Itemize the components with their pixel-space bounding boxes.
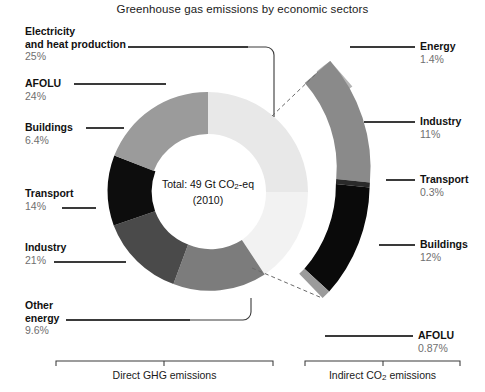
label-other-energy-name: Other bbox=[25, 299, 59, 312]
label-other-energy[interactable]: Other energy 9.6% bbox=[25, 299, 59, 337]
label-r-energy[interactable]: Energy 1.4% bbox=[420, 40, 456, 65]
label-industry-pct: 21% bbox=[25, 254, 66, 267]
bracket-direct-ghg bbox=[56, 361, 273, 366]
label-r-industry-name: Industry bbox=[420, 115, 461, 128]
label-r-buildings[interactable]: Buildings 12% bbox=[420, 238, 468, 263]
label-r-afolu-pct: 0.87% bbox=[418, 342, 454, 355]
label-other-energy-name2: energy bbox=[25, 312, 59, 325]
caption-indirect-co2: Indirect CO2 emissions bbox=[305, 369, 460, 382]
total-suffix: -eq bbox=[239, 178, 254, 190]
donut-center-line2: (2010) bbox=[133, 194, 283, 208]
label-transport-pct: 14% bbox=[25, 200, 73, 213]
label-r-afolu[interactable]: AFOLU 0.87% bbox=[418, 329, 454, 354]
label-industry[interactable]: Industry 21% bbox=[25, 241, 66, 266]
label-afolu-pct: 24% bbox=[25, 90, 61, 103]
slice-afolu[interactable] bbox=[114, 92, 208, 171]
donut-center-total: Total: 49 Gt CO2-eq (2010) bbox=[133, 178, 283, 207]
chart-canvas: Greenhouse gas emissions by economic sec… bbox=[0, 0, 485, 392]
label-r-industry-pct: 11% bbox=[420, 128, 461, 141]
label-r-buildings-name: Buildings bbox=[420, 238, 468, 251]
arc-indirect-co2 bbox=[299, 61, 370, 298]
caption-direct-ghg: Direct GHG emissions bbox=[56, 369, 273, 381]
label-electricity-heat[interactable]: Electricity and heat production 25% bbox=[25, 25, 126, 63]
label-buildings-pct: 6.4% bbox=[25, 134, 73, 147]
label-electricity-heat-name: Electricity bbox=[25, 25, 126, 38]
label-transport-name: Transport bbox=[25, 187, 73, 200]
donut-center-line1: Total: 49 Gt CO2-eq bbox=[133, 178, 283, 194]
total-prefix: Total: 49 Gt CO bbox=[162, 178, 234, 190]
slice-transport[interactable] bbox=[114, 211, 188, 284]
label-electricity-heat-name2: and heat production bbox=[25, 38, 126, 51]
arc-slice-buildings[interactable] bbox=[304, 184, 369, 292]
bracket-other-energy-callout bbox=[190, 298, 251, 320]
label-other-energy-pct: 9.6% bbox=[25, 324, 59, 337]
label-afolu-name: AFOLU bbox=[25, 77, 61, 90]
label-afolu[interactable]: AFOLU 24% bbox=[25, 77, 61, 102]
label-r-transport-pct: 0.3% bbox=[420, 186, 468, 199]
arc-slice-industry[interactable] bbox=[305, 61, 371, 183]
caption-indirect-suffix: emissions bbox=[386, 369, 436, 381]
label-r-transport[interactable]: Transport 0.3% bbox=[420, 173, 468, 198]
label-r-buildings-pct: 12% bbox=[420, 251, 468, 264]
bracket-indirect-co2 bbox=[305, 361, 460, 366]
label-r-transport-name: Transport bbox=[420, 173, 468, 186]
label-transport[interactable]: Transport 14% bbox=[25, 187, 73, 212]
label-r-industry[interactable]: Industry 11% bbox=[420, 115, 461, 140]
caption-indirect-prefix: Indirect CO bbox=[329, 369, 382, 381]
label-buildings-name: Buildings bbox=[25, 121, 73, 134]
label-electricity-heat-pct: 25% bbox=[25, 50, 126, 63]
label-r-energy-name: Energy bbox=[420, 40, 456, 53]
label-buildings[interactable]: Buildings 6.4% bbox=[25, 121, 73, 146]
slice-electricity-heat[interactable] bbox=[208, 92, 308, 192]
label-industry-name: Industry bbox=[25, 241, 66, 254]
label-r-afolu-name: AFOLU bbox=[418, 329, 454, 342]
label-r-energy-pct: 1.4% bbox=[420, 53, 456, 66]
